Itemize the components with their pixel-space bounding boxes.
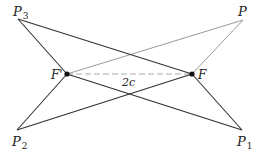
label-f: F (197, 68, 207, 82)
label-p: P (237, 4, 247, 19)
focus-f-dot (189, 71, 194, 76)
segment-p-fprime (67, 20, 243, 74)
segment-p1-fprime (67, 74, 242, 130)
focus-fprime-dot (64, 71, 69, 76)
label-fprime: F' (50, 68, 63, 82)
label-distance-2c: 2c (121, 76, 135, 89)
label-p1: P1 (236, 134, 252, 151)
segment-p2-f (17, 74, 192, 130)
label-p3: P3 (12, 4, 29, 21)
label-p2: P2 (11, 134, 27, 151)
hyperbola-foci-diagram: P3 P P2 P1 F' F 2c (0, 0, 261, 153)
segment-p3-f (18, 19, 192, 74)
